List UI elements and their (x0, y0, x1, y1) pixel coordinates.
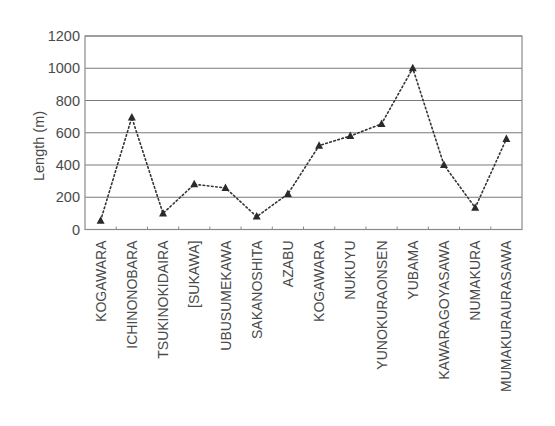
y-tick-label: 200 (56, 189, 80, 205)
gridlines (85, 36, 522, 197)
x-tick-label: ICHINONOBARA (124, 240, 140, 349)
x-tick-label: TSUKINOKIDAIRA (155, 240, 171, 359)
x-tick-label: SAKANOSHITA (249, 240, 265, 339)
triangle-marker-icon (284, 190, 292, 198)
y-tick-label: 600 (56, 125, 80, 141)
triangle-marker-icon (128, 113, 136, 121)
x-tick-label: KOGAWARA (311, 240, 327, 322)
triangle-marker-icon (97, 216, 105, 224)
x-tick-label: UBUSUMEKAWA (218, 240, 234, 351)
x-tick-label: YUNOKURAONSEN (374, 241, 390, 370)
triangle-marker-icon (409, 64, 417, 72)
x-tick-label: [SUKAWA] (186, 241, 202, 308)
y-tick-label: 400 (56, 157, 80, 173)
x-tick-label: NUMAKURA (467, 240, 483, 321)
y-tick-label: 1200 (48, 28, 80, 44)
x-tick-label: KOGAWARA (93, 240, 109, 322)
x-axis-labels: KOGAWARAICHINONOBARATSUKINOKIDAIRA[SUKAW… (93, 240, 515, 392)
y-tick-label: 0 (72, 222, 80, 238)
triangle-marker-icon (440, 161, 448, 169)
triangle-marker-icon (378, 119, 386, 127)
line-chart: 020040060080010001200 Length (m) KOGAWAR… (0, 0, 555, 426)
triangle-marker-icon (221, 183, 229, 191)
triangle-marker-icon (159, 209, 167, 217)
x-tick-label: AZABU (280, 241, 296, 288)
y-axis-label: Length (m) (31, 111, 47, 181)
y-tick-label: 800 (56, 93, 80, 109)
x-tick-label: MUMAKURAURASAWA (498, 240, 514, 392)
triangle-marker-icon (190, 180, 198, 188)
x-tick-label: KAWARAGOYASAWA (436, 240, 452, 380)
y-axis-ticks: 020040060080010001200 (48, 28, 80, 238)
y-tick-label: 1000 (48, 60, 80, 76)
x-tick-label: YUBAMA (405, 240, 421, 300)
x-tick-label: NUKUYU (342, 241, 358, 300)
triangle-marker-icon (502, 134, 510, 142)
